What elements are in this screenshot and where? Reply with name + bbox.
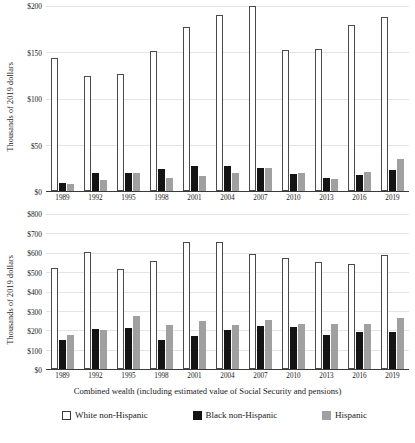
bar xyxy=(158,169,165,191)
bar xyxy=(249,254,256,369)
bar xyxy=(356,175,363,191)
bar xyxy=(323,335,330,369)
bar xyxy=(389,170,396,191)
figure: Thousands of 2019 dollars $0$50$100$150$… xyxy=(0,0,415,443)
chart-legend: White non-HispanicBlack non-HispanicHisp… xyxy=(0,406,415,424)
bar-group xyxy=(310,214,343,369)
chart-panel-bottom: Thousands of 2019 dollars $0$100$200$300… xyxy=(0,214,415,386)
y-axis-ticks-bottom: $0$100$200$300$400$500$600$700$800 xyxy=(18,214,44,386)
bar-group xyxy=(277,6,310,191)
x-tick-label: 1998 xyxy=(145,192,178,208)
bar-group xyxy=(211,6,244,191)
bar xyxy=(199,321,206,369)
bar xyxy=(224,330,231,369)
bar-group xyxy=(211,214,244,369)
bar xyxy=(92,329,99,369)
bar xyxy=(59,183,66,191)
bar-groups-bottom xyxy=(46,214,409,369)
y-tick-label: $0 xyxy=(35,366,42,375)
bar xyxy=(257,326,264,369)
bar xyxy=(232,325,239,369)
bar-group xyxy=(343,6,376,191)
y-axis-title-bottom-label: Thousands of 2019 dollars xyxy=(6,255,15,345)
bar xyxy=(389,332,396,369)
y-tick-label: $100 xyxy=(27,346,42,355)
x-tick-label: 1995 xyxy=(112,192,145,208)
bar xyxy=(356,332,363,369)
bar xyxy=(59,340,66,369)
chart-panel-top: Thousands of 2019 dollars $0$50$100$150$… xyxy=(0,6,415,208)
bar xyxy=(51,268,58,369)
bar xyxy=(92,173,99,191)
x-tick-label: 1998 xyxy=(145,370,178,386)
bar xyxy=(381,255,388,369)
x-tick-label: 2019 xyxy=(376,370,409,386)
x-tick-label: 1989 xyxy=(46,192,79,208)
bar xyxy=(331,324,338,369)
x-tick-label: 2004 xyxy=(211,370,244,386)
bar xyxy=(84,252,91,369)
legend-swatch-gray xyxy=(322,411,331,420)
bar xyxy=(117,269,124,369)
y-tick-label: $100 xyxy=(27,95,42,104)
bar xyxy=(364,324,371,369)
x-tick-label: 2010 xyxy=(277,192,310,208)
y-axis-title-top-label: Thousands of 2019 dollars xyxy=(6,62,15,152)
bar xyxy=(199,176,206,191)
y-axis-ticks-top: $0$50$100$150$200 xyxy=(18,6,44,208)
plot-area-bottom xyxy=(46,214,409,370)
x-tick-label: 2007 xyxy=(244,192,277,208)
bar xyxy=(290,327,297,369)
bar xyxy=(166,178,173,191)
bar-group xyxy=(79,214,112,369)
bar xyxy=(84,76,91,191)
legend-swatch-white xyxy=(62,411,71,420)
bar xyxy=(232,173,239,191)
x-tick-label: 2019 xyxy=(376,192,409,208)
x-tick-label: 2001 xyxy=(178,370,211,386)
y-axis-title-bottom: Thousands of 2019 dollars xyxy=(2,214,18,386)
bar xyxy=(315,262,322,369)
x-tick-label: 1992 xyxy=(79,192,112,208)
bar xyxy=(282,50,289,191)
x-tick-label: 2010 xyxy=(277,370,310,386)
bar xyxy=(265,320,272,369)
y-tick-label: $300 xyxy=(27,307,42,316)
bar xyxy=(364,172,371,191)
bar xyxy=(125,328,132,369)
plot-wrapper-bottom: $0$100$200$300$400$500$600$700$800 19891… xyxy=(18,214,409,386)
bar xyxy=(257,168,264,191)
legend-swatch-black xyxy=(193,411,202,420)
x-tick-label: 2016 xyxy=(343,192,376,208)
bar xyxy=(249,6,256,191)
bar xyxy=(348,25,355,192)
x-tick-label: 1992 xyxy=(79,370,112,386)
bar xyxy=(67,184,74,191)
legend-item: Black non-Hispanic xyxy=(193,410,278,420)
bar xyxy=(67,335,74,369)
figure-caption xyxy=(6,433,8,442)
bar xyxy=(183,27,190,191)
bar-group xyxy=(343,214,376,369)
legend-label: Black non-Hispanic xyxy=(206,410,278,420)
bar-group xyxy=(310,6,343,191)
bar-group xyxy=(178,6,211,191)
x-tick-label: 2013 xyxy=(310,370,343,386)
bar-group xyxy=(277,214,310,369)
legend-item: Hispanic xyxy=(322,410,367,420)
bar xyxy=(331,179,338,191)
x-tick-label: 2004 xyxy=(211,192,244,208)
bar-group xyxy=(145,214,178,369)
x-axis-title: Combined wealth (including estimated val… xyxy=(0,386,415,396)
bar xyxy=(282,258,289,369)
plot-area-top xyxy=(46,6,409,192)
bar xyxy=(117,74,124,191)
bar xyxy=(133,173,140,192)
bar xyxy=(100,330,107,369)
bar xyxy=(150,51,157,191)
y-tick-label: $700 xyxy=(27,229,42,238)
y-tick-label: $600 xyxy=(27,249,42,258)
bar xyxy=(397,318,404,369)
bar-group xyxy=(112,214,145,369)
y-tick-label: $200 xyxy=(27,327,42,336)
